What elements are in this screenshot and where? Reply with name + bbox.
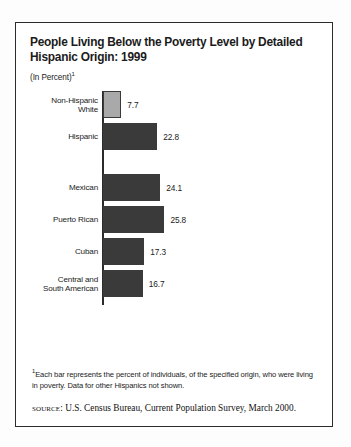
- bar-category-label: Mexican: [20, 183, 98, 192]
- bar-category-label: Central and South American: [20, 274, 98, 293]
- bar: [103, 174, 160, 201]
- chart-subtitle: (In Percent)1: [30, 73, 318, 82]
- bar: [103, 91, 121, 118]
- bar-category-label: Hispanic: [20, 132, 98, 141]
- bar-value-label: 17.3: [144, 247, 166, 257]
- footnote-text: Each bar represents the percent of indiv…: [32, 370, 313, 390]
- bar: [103, 206, 164, 233]
- bar-category-label: Cuban: [20, 247, 98, 256]
- bar-category-label: Non-Hispanic White: [20, 95, 98, 114]
- page-title: People Living Below the Poverty Level by…: [30, 35, 306, 64]
- subtitle-footnote-marker: 1: [72, 71, 75, 77]
- bar-category-label: Puerto Rican: [20, 215, 98, 224]
- bar-value-label: 25.8: [164, 215, 186, 225]
- bar-value-label: 22.8: [157, 132, 179, 142]
- chart-figure: People Living Below the Poverty Level by…: [15, 22, 333, 427]
- bar: [103, 270, 143, 297]
- bar-row: Central and South American16.7: [16, 270, 332, 297]
- bar-value-label: 24.1: [160, 183, 182, 193]
- chart-source: source: U.S. Census Bureau, Current Popu…: [32, 403, 316, 415]
- source-text: U.S. Census Bureau, Current Population S…: [65, 403, 296, 413]
- bar-row: Non-Hispanic White7.7: [16, 91, 332, 118]
- bar-row: Mexican24.1: [16, 174, 332, 201]
- bar-value-label: 7.7: [121, 100, 138, 110]
- bar-row: Puerto Rican25.8: [16, 206, 332, 233]
- chart-header: People Living Below the Poverty Level by…: [16, 23, 332, 82]
- bar-value-label: 16.7: [143, 279, 165, 289]
- bar-chart-plot: Non-Hispanic White7.7Hispanic22.8Mexican…: [16, 91, 332, 305]
- chart-footnote: 1Each bar represents the percent of indi…: [32, 370, 316, 391]
- chart-notes: 1Each bar represents the percent of indi…: [16, 370, 332, 426]
- chart-subtitle-text: (In Percent): [30, 73, 72, 82]
- bar: [103, 238, 144, 265]
- bar-row: Cuban17.3: [16, 238, 332, 265]
- bar-row: Hispanic22.8: [16, 123, 332, 150]
- source-label: source:: [32, 403, 63, 413]
- bar: [103, 123, 157, 150]
